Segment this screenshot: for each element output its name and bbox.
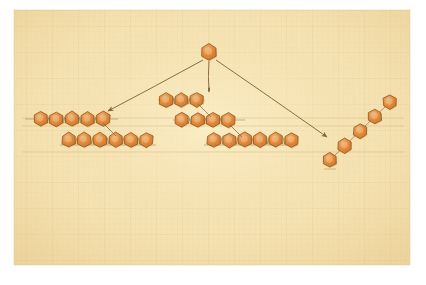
starch-chain-upper (25, 111, 118, 128)
diagram-canvas (0, 0, 426, 285)
hand-drawn-diagram (0, 0, 426, 285)
glycogen-chain-top (158, 93, 205, 109)
